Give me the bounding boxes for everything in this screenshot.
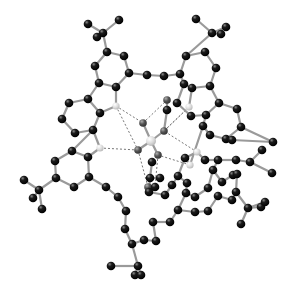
carbon-atom [143, 71, 152, 80]
carbon-atom [120, 52, 129, 61]
oxygen-atom [154, 151, 162, 159]
carbon-atom [206, 82, 215, 91]
carbon-atom [115, 16, 124, 25]
carbon-atom [166, 218, 175, 227]
carbon-atom [181, 154, 190, 163]
carbon-atom [168, 181, 177, 190]
carbon-atom [232, 188, 241, 197]
carbon-atom [29, 194, 38, 203]
carbon-atom [187, 112, 196, 121]
carbon-atom [191, 208, 200, 217]
nitrogen-atom [96, 144, 103, 151]
oxygen-atom [134, 146, 142, 154]
carbon-atom [84, 20, 93, 29]
carbon-atom [173, 99, 182, 108]
carbon-atom [201, 48, 210, 57]
carbon-atom [233, 170, 242, 179]
carbon-atom [68, 147, 77, 156]
oxygen-atom [160, 127, 168, 135]
bond-layer [24, 19, 273, 275]
carbon-atom [65, 99, 74, 108]
carbon-atom [191, 193, 200, 202]
carbon-atom [125, 69, 134, 78]
hydrogen-bond [138, 150, 148, 187]
carbon-atom [201, 156, 210, 165]
carbon-atom [269, 138, 278, 147]
carbon-atom [215, 99, 224, 108]
carbon-atom [114, 193, 123, 202]
oxygen-atom [139, 119, 147, 127]
carbon-atom [102, 183, 111, 192]
carbon-atom [160, 72, 169, 81]
carbon-atom [35, 186, 44, 195]
carbon-atom [58, 115, 67, 124]
carbon-atom [145, 188, 154, 197]
carbon-atom [208, 29, 217, 38]
carbon-atom [93, 33, 102, 42]
central-atom [146, 136, 156, 146]
carbon-atom [214, 156, 223, 165]
carbon-atom [146, 174, 155, 183]
carbon-atom [137, 271, 146, 280]
carbon-atom [174, 206, 183, 215]
carbon-atom [233, 105, 242, 114]
molecular-structure-figure [0, 0, 288, 292]
carbon-atom [84, 153, 93, 162]
carbon-atom [152, 237, 161, 246]
carbon-atom [51, 157, 60, 166]
carbon-atom [246, 158, 255, 167]
carbon-atom [161, 191, 170, 200]
carbon-atom [209, 166, 218, 175]
carbon-atom [70, 183, 79, 192]
carbon-atom [222, 23, 231, 32]
carbon-atom [148, 158, 157, 167]
carbon-atom [89, 126, 98, 135]
carbon-atom [214, 192, 223, 201]
carbon-atom [199, 122, 208, 131]
carbon-atom [182, 189, 191, 198]
carbon-atom [84, 95, 93, 104]
nitrogen-atom [193, 148, 200, 155]
carbon-atom [206, 131, 215, 140]
carbon-atom [228, 136, 237, 145]
carbon-atom [85, 173, 94, 182]
carbon-atom [121, 225, 130, 234]
carbon-atom [182, 52, 191, 61]
carbon-atom [217, 30, 226, 39]
carbon-atom [71, 129, 80, 138]
carbon-atom [202, 111, 211, 120]
carbon-atom [52, 174, 61, 183]
carbon-atom [91, 62, 100, 71]
carbon-atom [149, 218, 158, 227]
carbon-atom [183, 179, 192, 188]
carbon-atom [107, 262, 116, 271]
carbon-atom [204, 184, 213, 193]
oxygen-atom [163, 96, 171, 104]
carbon-atom [103, 48, 112, 57]
carbon-atom [38, 205, 47, 214]
carbon-atom [134, 262, 143, 271]
nitrogen-atom [185, 103, 192, 110]
carbon-atom [228, 196, 237, 205]
hydrogen-bond [164, 131, 197, 152]
carbon-atom [237, 123, 246, 132]
carbon-atom [192, 15, 201, 24]
carbon-atom [128, 240, 137, 249]
carbon-atom [218, 178, 227, 187]
carbon-atom [232, 156, 241, 165]
nitrogen-atom [112, 102, 119, 109]
carbon-atom [122, 207, 131, 216]
carbon-atom [212, 64, 221, 73]
ball-and-stick-model [0, 0, 288, 292]
carbon-atom [244, 204, 253, 213]
carbon-atom [112, 83, 121, 92]
carbon-atom [261, 198, 270, 207]
carbon-atom [20, 176, 29, 185]
carbon-atom [258, 146, 267, 155]
carbon-atom [163, 106, 172, 115]
nitrogen-atom [186, 161, 193, 168]
carbon-atom [180, 80, 189, 89]
carbon-atom [140, 236, 149, 245]
carbon-atom [176, 70, 185, 79]
carbon-atom [95, 79, 104, 88]
